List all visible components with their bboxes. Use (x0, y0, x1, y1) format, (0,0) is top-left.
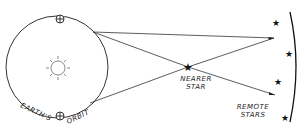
remote-star-icon-3: ★ (274, 77, 282, 87)
remote-stars-label-2: STARS (241, 111, 266, 119)
sight-line-top-extended (188, 38, 274, 67)
earth-bottom-icon (56, 112, 64, 120)
sight-line-top-start (93, 32, 274, 38)
remote-stars-label-1: REMOTE (237, 103, 270, 111)
diagram-svg: ★ NEARER STAR ★ ★ ★ ★ REMOTE STARS EARTH… (0, 0, 306, 129)
remote-stars-arc (290, 12, 296, 122)
orbit-label-1: EARTH'S (19, 102, 53, 123)
sun-icon (46, 56, 70, 80)
parallax-diagram: ★ NEARER STAR ★ ★ ★ ★ REMOTE STARS EARTH… (0, 0, 306, 129)
orbit-label-2: ORBIT (65, 108, 90, 125)
earth-top-icon (56, 15, 64, 23)
nearer-star-label-1: NEARER (180, 75, 212, 83)
arrowhead-bottom-icon (269, 92, 275, 95)
remote-star-icon-4: ★ (281, 113, 289, 123)
remote-star-icon-1: ★ (272, 18, 280, 28)
remote-star-icon-2: ★ (285, 49, 293, 59)
nearer-star-label-2: STAR (186, 83, 206, 91)
nearer-star-icon: ★ (183, 61, 193, 74)
